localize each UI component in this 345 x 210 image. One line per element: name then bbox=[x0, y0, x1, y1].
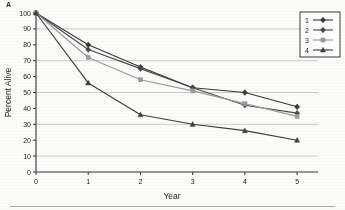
chart-legend[interactable]: 1234 bbox=[300, 12, 340, 57]
svg-text:3: 3 bbox=[191, 178, 195, 185]
gridlines bbox=[36, 29, 318, 156]
svg-text:30: 30 bbox=[23, 121, 31, 128]
svg-text:100: 100 bbox=[19, 10, 31, 17]
svg-text:2: 2 bbox=[305, 27, 309, 34]
figure-panel-a: A 0102030405060708090100 012345 1234 Yea… bbox=[0, 0, 345, 210]
svg-text:50: 50 bbox=[23, 89, 31, 96]
svg-text:40: 40 bbox=[23, 105, 31, 112]
svg-text:1: 1 bbox=[86, 178, 90, 185]
svg-text:4: 4 bbox=[305, 47, 309, 54]
axis-titles: YearPercent Alive bbox=[3, 67, 181, 201]
svg-text:2: 2 bbox=[138, 178, 142, 185]
data-series bbox=[33, 10, 299, 142]
svg-text:0: 0 bbox=[27, 169, 31, 176]
svg-text:1: 1 bbox=[305, 17, 309, 24]
svg-text:90: 90 bbox=[23, 25, 31, 32]
y-axis-ticks: 0102030405060708090100 bbox=[19, 10, 36, 176]
svg-text:3: 3 bbox=[305, 37, 309, 44]
svg-text:80: 80 bbox=[23, 41, 31, 48]
svg-text:Percent Alive: Percent Alive bbox=[3, 67, 13, 117]
svg-text:60: 60 bbox=[23, 73, 31, 80]
svg-text:10: 10 bbox=[23, 153, 31, 160]
survival-chart: 0102030405060708090100 012345 1234 YearP… bbox=[0, 0, 345, 210]
svg-text:70: 70 bbox=[23, 57, 31, 64]
svg-text:5: 5 bbox=[295, 178, 299, 185]
svg-text:Year: Year bbox=[163, 191, 180, 201]
x-axis-ticks: 012345 bbox=[34, 172, 299, 185]
svg-text:4: 4 bbox=[243, 178, 247, 185]
svg-text:0: 0 bbox=[34, 178, 38, 185]
svg-text:20: 20 bbox=[23, 137, 31, 144]
bottom-rule bbox=[10, 206, 335, 207]
